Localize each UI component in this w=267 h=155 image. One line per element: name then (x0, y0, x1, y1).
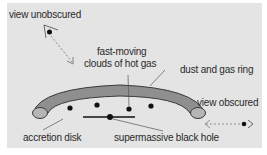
label-view-obscured: view obscured (197, 97, 258, 108)
eye-observer-side-icon (242, 122, 247, 127)
label-dust-gas-ring: dust and gas ring (180, 64, 253, 75)
dashed-arrow-icon (51, 36, 73, 64)
label-black-hole: supermassive black hole (114, 132, 219, 143)
black-hole (107, 114, 113, 120)
dust-gas-ring (33, 85, 206, 119)
label-view-unobscured: view unobscured (9, 9, 81, 20)
label-clouds-hot-gas: clouds of hot gas (84, 58, 156, 69)
label-accretion-disk: accretion disk (23, 132, 81, 143)
hot-gas-clouds (67, 102, 153, 111)
label-fast-moving: fast-moving (97, 46, 147, 57)
